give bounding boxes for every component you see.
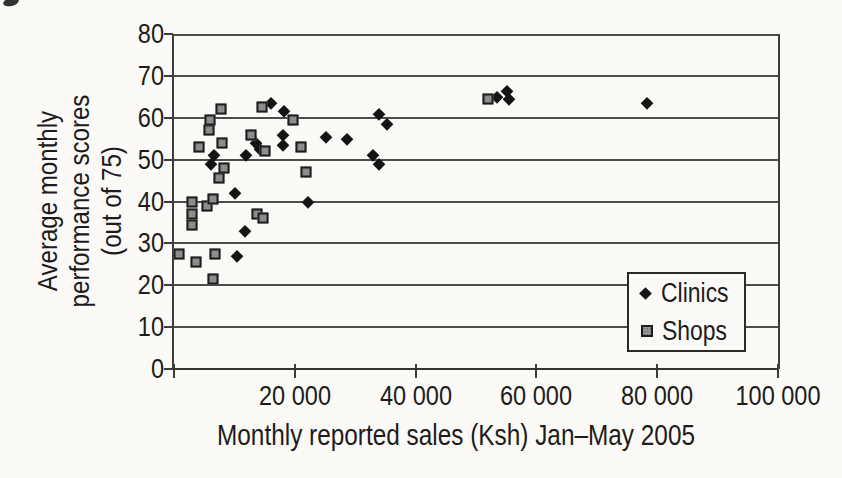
data-point-shops <box>210 248 221 259</box>
y-axis-title: Average monthly performance scores (out … <box>32 95 128 308</box>
data-point-shops <box>219 163 230 174</box>
data-point-shops <box>245 129 256 140</box>
x-tick-label-20000: 20 000 <box>259 381 331 411</box>
data-point-shops <box>259 146 270 157</box>
data-point-shops <box>186 196 197 207</box>
data-point-shops <box>191 257 202 268</box>
y-tick-label-0: 0 <box>26 354 164 384</box>
x-tick-label-100000: 100 000 <box>735 381 820 411</box>
data-point-shops <box>301 167 312 178</box>
data-point-clinics <box>277 139 289 151</box>
data-point-shops <box>257 102 268 113</box>
gridline-y-30 <box>174 242 778 244</box>
shops-square-marker-icon <box>641 325 653 337</box>
gridline-y-50 <box>174 159 778 161</box>
data-point-clinics <box>302 195 314 207</box>
gridline-y-0 <box>174 368 778 370</box>
x-tick-label-80000: 80 000 <box>621 381 693 411</box>
y-axis-title-line-3: (out of 75) <box>96 95 128 308</box>
data-point-clinics <box>320 131 332 143</box>
data-point-shops <box>174 248 185 259</box>
data-point-clinics <box>231 250 243 262</box>
y-axis-title-line-2: performance scores <box>64 95 96 308</box>
data-point-clinics <box>381 118 393 130</box>
scan-artifact <box>2 0 19 8</box>
gridline-y-60 <box>174 117 778 119</box>
gridline-y-40 <box>174 201 778 203</box>
data-point-shops <box>207 273 218 284</box>
data-point-shops <box>483 93 494 104</box>
data-point-shops <box>296 142 307 153</box>
data-point-clinics <box>239 225 251 237</box>
data-point-shops <box>186 219 197 230</box>
x-tick-label-40000: 40 000 <box>380 381 452 411</box>
data-point-clinics <box>229 187 241 199</box>
y-tick-label-80: 80 <box>26 19 164 49</box>
legend-item-shops: Shops <box>629 312 744 350</box>
data-point-clinics <box>341 133 353 145</box>
x-tick-label-60000: 60 000 <box>500 381 572 411</box>
legend: Clinics Shops <box>627 272 746 352</box>
gridline-y-70 <box>174 75 778 77</box>
data-point-shops <box>258 213 269 224</box>
y-tick-label-70: 70 <box>26 61 164 91</box>
y-tick-label-10: 10 <box>26 312 164 342</box>
data-point-shops <box>204 125 215 136</box>
data-point-shops <box>194 142 205 153</box>
y-axis-title-line-1: Average monthly <box>32 95 64 308</box>
legend-label-clinics: Clinics <box>661 280 729 307</box>
data-point-shops <box>186 209 197 220</box>
legend-label-shops: Shops <box>662 318 727 345</box>
data-point-shops <box>217 137 228 148</box>
legend-item-clinics: Clinics <box>629 274 744 312</box>
data-point-shops <box>287 114 298 125</box>
data-point-shops <box>207 194 218 205</box>
gridline-y-80 <box>174 34 778 36</box>
clinics-diamond-marker-icon <box>639 287 652 300</box>
data-point-shops <box>205 114 216 125</box>
data-point-shops <box>214 173 225 184</box>
x-axis-title: Monthly reported sales (Ksh) Jan–May 200… <box>217 419 695 451</box>
data-point-clinics <box>641 97 653 109</box>
scatter-chart-figure: Average monthly performance scores (out … <box>0 0 842 478</box>
data-point-shops <box>215 104 226 115</box>
